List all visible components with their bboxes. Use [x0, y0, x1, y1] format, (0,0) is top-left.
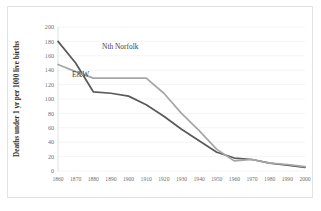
y-axis-tick-label: 160: [45, 53, 54, 59]
x-axis-tick-label: 1950: [211, 176, 222, 182]
y-axis-tick-label: 140: [45, 67, 54, 73]
infant-mortality-line-chart: 0204060801001201401601802001860187018801…: [8, 7, 312, 197]
y-axis-tick-label: 60: [48, 125, 54, 131]
x-axis-tick-label: 1900: [123, 176, 134, 182]
data-series-e-w: [58, 41, 305, 167]
chart-plot-area: 0204060801001201401601802001860187018801…: [8, 7, 312, 197]
y-axis-tick-label: 0: [51, 168, 54, 174]
y-axis-tick-label: 100: [45, 96, 54, 102]
x-axis-tick-label: 1870: [70, 176, 81, 182]
series-annotation-label: Nth Norfolk: [102, 42, 139, 51]
y-axis-tick-label: 20: [48, 154, 54, 160]
y-axis-tick-label: 200: [45, 24, 54, 30]
y-axis-tick-label: 80: [48, 111, 54, 117]
y-axis-title: Deaths under 1 yr per 1000 live births: [13, 41, 21, 157]
x-axis-tick-label: 1960: [229, 176, 240, 182]
x-axis-tick-label: 1970: [246, 176, 257, 182]
x-axis-tick-label: 1920: [158, 176, 169, 182]
x-axis-tick-label: 1880: [88, 176, 99, 182]
x-axis-tick-label: 1930: [176, 176, 187, 182]
series-annotation-label: E&W: [72, 70, 89, 79]
chart-frame: 0204060801001201401601802001860187018801…: [7, 6, 313, 198]
x-axis-tick-label: 1860: [52, 176, 63, 182]
y-axis-tick-label: 180: [45, 39, 54, 45]
y-axis-tick-label: 120: [45, 82, 54, 88]
x-axis-tick-label: 1940: [194, 176, 205, 182]
x-axis-tick-label: 1980: [264, 176, 275, 182]
x-axis-tick-label: 1910: [141, 176, 152, 182]
y-axis-tick-label: 40: [48, 139, 54, 145]
x-axis-tick-label: 1890: [105, 176, 116, 182]
data-series-nth-norfolk: [58, 64, 305, 166]
x-axis-tick-label: 2000: [299, 176, 310, 182]
x-axis-tick-label: 1990: [282, 176, 293, 182]
